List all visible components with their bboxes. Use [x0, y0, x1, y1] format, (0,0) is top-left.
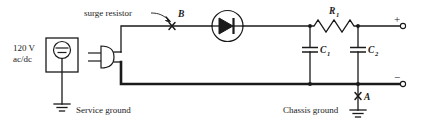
point-a-label: A [363, 92, 370, 102]
source-symbol [46, 38, 78, 104]
plug-symbol [88, 46, 121, 68]
chassis-ground-label: Chassis ground [283, 105, 339, 115]
return-bus [121, 62, 406, 87]
surge-resistor-label: surge resistor [84, 8, 132, 18]
negative-output-terminal[interactable] [400, 81, 405, 86]
positive-output-terminal[interactable] [400, 23, 405, 28]
capacitor-c1-label: C [320, 45, 327, 55]
source-voltage-line1: 120 V [13, 43, 36, 53]
hot-rail-left [121, 26, 212, 52]
circuit-diagram-canvas: 120 V ac/dc surge resistor B A R 1 C 1 C… [0, 0, 424, 130]
resistor-r1-label: R [328, 6, 335, 16]
surge-resistor-leader-arrow [166, 17, 171, 22]
point-b-label: B [177, 9, 184, 19]
service-ground-symbol [54, 104, 70, 111]
node-c1-bottom [308, 82, 312, 86]
service-ground-label: Service ground [76, 105, 131, 115]
source-voltage-line2: ac/dc [13, 54, 32, 64]
resistor-r1-symbol [310, 20, 358, 32]
positive-terminal-sign: + [394, 13, 400, 25]
source-circle [54, 42, 71, 59]
capacitor-c1-subscript: 1 [327, 50, 330, 57]
schematic-svg: 120 V ac/dc surge resistor B A R 1 C 1 C… [0, 0, 424, 130]
capacitor-c2-branch [350, 24, 366, 84]
hot-rail [121, 26, 310, 52]
resistor-r1-subscript: 1 [336, 11, 339, 18]
capacitor-c2-label: C [368, 45, 375, 55]
negative-terminal-sign: − [394, 71, 400, 83]
diode-triangle [219, 18, 233, 34]
resistor-r1-zigzag [310, 20, 358, 32]
plug-body [101, 46, 114, 68]
diode-symbol [212, 11, 243, 42]
capacitor-c1-branch [302, 24, 318, 84]
capacitor-c2-subscript: 2 [374, 50, 379, 57]
